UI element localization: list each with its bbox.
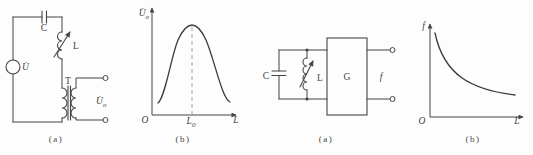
variable-arrow-icon xyxy=(54,32,70,57)
transformer-primary-coil xyxy=(62,88,67,118)
panel-resonant-circuit: C U̇ L T U̇o (a) xyxy=(6,11,108,144)
junction-dot-top xyxy=(305,48,308,51)
capacitor-label: C xyxy=(41,23,47,33)
output-terminal-bottom xyxy=(103,118,108,123)
caption-a2: (a) xyxy=(319,134,334,144)
inductor-label: L xyxy=(317,73,323,83)
variable-inductor-symbol xyxy=(300,58,313,90)
peak-x-tick-label: L0 xyxy=(186,116,196,129)
capacitor-label: C xyxy=(263,71,269,81)
ac-source-icon xyxy=(6,60,20,74)
figure-canvas: C U̇ L T U̇o (a) U̇o O L0 L ( xyxy=(0,0,533,155)
caption-b2: (b) xyxy=(466,134,481,144)
capacitor-symbol xyxy=(272,71,286,76)
box-label: G xyxy=(344,72,351,82)
origin-label: O xyxy=(142,115,149,125)
x-axis-label: L xyxy=(232,115,238,125)
origin-label: O xyxy=(419,116,426,126)
variable-arrow-icon xyxy=(300,61,313,87)
output-voltage-label: U̇o xyxy=(96,96,107,109)
output-terminal-bottom xyxy=(390,97,395,102)
caption-a1: (a) xyxy=(49,134,64,144)
transformer-core xyxy=(68,86,71,120)
x-axis-label: L xyxy=(513,116,519,126)
output-terminal-top xyxy=(390,48,395,53)
capacitor-symbol xyxy=(42,11,47,23)
transformer-secondary-coil xyxy=(71,88,76,118)
y-axis-label: U̇o xyxy=(139,8,150,21)
panel-f-graph: f O L (b) xyxy=(419,21,523,144)
decreasing-curve xyxy=(435,33,515,95)
output-wires xyxy=(367,50,390,99)
resonance-curve xyxy=(158,25,230,103)
output-frequency-label: f xyxy=(380,72,384,82)
junction-dot-bottom xyxy=(305,97,308,100)
figure-svg: C U̇ L T U̇o (a) U̇o O L0 L ( xyxy=(0,0,533,155)
inductor-label: L xyxy=(73,41,79,51)
variable-inductor-symbol xyxy=(54,32,70,59)
y-axis-label: f xyxy=(422,21,426,31)
output-terminal-top xyxy=(103,76,108,81)
caption-b1: (b) xyxy=(176,134,191,144)
panel-oscillator-circuit: C L G f (a) xyxy=(263,38,395,144)
transformer-symbol xyxy=(62,86,76,120)
panel-u0-graph: U̇o O L0 L (b) xyxy=(139,8,239,144)
transformer-label: T xyxy=(65,76,71,86)
source-voltage-label: U̇ xyxy=(22,62,30,72)
